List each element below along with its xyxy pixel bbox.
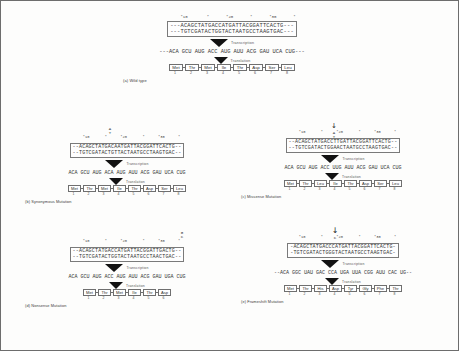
amino-acid-box: Met [284, 180, 297, 187]
amino-acid-box: Gly [359, 285, 372, 292]
amino-acid-box: Met [201, 64, 215, 71]
amino-acid-box: Ile [329, 180, 342, 187]
amino-acid-box: Met [169, 64, 183, 71]
amino-acid-box: Asp [143, 185, 156, 192]
amino-acid-box: Asp [158, 289, 171, 296]
amino-acid-box: Ile [113, 185, 126, 192]
panel-c-mrna-sequence: ACA GCU AUG ACC UUG AUU ACG GAU UCA CUG [239, 165, 447, 171]
panel-d-protein-chain: MetThrMetIleThrAsp [23, 289, 231, 296]
panel-c-residue-numbers: 12345678 [239, 187, 447, 191]
residue-number: 4 [216, 71, 230, 75]
residue-number: 3 [313, 187, 326, 191]
panel-d-mrna-sequence: ACA GCU AUG ACC AUG AUU ACG GAU UGA CUG [23, 274, 231, 280]
panel-synonymous-mutation: A T *10 * *20 * *30 * --ACAGCTATGACAATGA… [23, 127, 231, 204]
residue-number: 8 [280, 71, 294, 75]
amino-acid-box: Met [83, 289, 96, 296]
residue-number: 4 [127, 296, 140, 300]
amino-acid-box: Thr [128, 185, 141, 192]
panel-c-translation-label: Translation [342, 175, 361, 179]
translation-arrow-icon [109, 282, 123, 289]
residue-number: 6 [358, 187, 371, 191]
residue-number: 8 [388, 187, 401, 191]
residue-number: 7 [373, 292, 386, 296]
amino-acid-box: Leu [389, 180, 402, 187]
residue-number: 4 [328, 187, 341, 191]
amino-acid-box: Ser [265, 64, 279, 71]
panel-e-residue-numbers: 12345678 [239, 292, 447, 296]
panel-c-dna-template-strand: --TGTCGATACTGGAACTAATGCCTAAGTGAC-- [289, 146, 398, 152]
residue-number: 8 [388, 292, 401, 296]
panel-d-residue-numbers: 123456 [23, 296, 231, 300]
residue-number: 4 [112, 192, 125, 196]
residue-number: 4 [328, 292, 341, 296]
panel-missense-mutation: ↓ A T *10 * *20 * *30 * --ACAGCTATGACCTT… [239, 123, 447, 199]
amino-acid-box: Ile [217, 64, 231, 71]
amino-acid-box: Leu [173, 185, 186, 192]
amino-acid-box: Tyr [344, 285, 357, 292]
residue-number: 6 [142, 192, 155, 196]
panel-c-transcription-label: Transcription [342, 157, 364, 161]
amino-acid-box: Thr [143, 289, 156, 296]
residue-number: 5 [127, 192, 140, 196]
panel-a-mrna-sequence: ---ACA GCU AUG ACC AUG AUU ACG GAU UCA C… [119, 49, 345, 55]
amino-acid-box: Leu [281, 64, 295, 71]
panel-a-dna-template-strand: ---TGTCGATACTGGTACTAATGCCTAAGTGAC--- [170, 29, 294, 35]
panel-b-dna-duplex: --ACAGCTATGACAATGATTACGGATTCACTG-- --TGT… [70, 143, 185, 159]
amino-acid-box: Leu [314, 180, 327, 187]
panel-a-residue-numbers: 12345678 [119, 71, 345, 75]
amino-acid-box: Met [98, 185, 111, 192]
residue-number: 1 [283, 292, 296, 296]
amino-acid-box: His [314, 285, 327, 292]
residue-number: 6 [358, 292, 371, 296]
panel-frameshift-mutation: ↓ C *10 * *20 * *30 * -ACAGCTATGACCCATGA… [239, 227, 447, 304]
residue-number: 2 [184, 71, 198, 75]
panel-d-dna-template-strand: --TGTCGATACTGGTACTAATGCCTAACTGAC-- [73, 255, 182, 261]
residue-number: 5 [232, 71, 246, 75]
panel-b-residue-numbers: 12345678 [23, 192, 231, 196]
panel-a-translation-step: Translation [119, 57, 345, 64]
residue-number: 2 [298, 292, 311, 296]
amino-acid-box: Thr [299, 180, 312, 187]
panel-b-translation-label: Translation [126, 180, 145, 184]
amino-acid-box: Thr [98, 289, 111, 296]
transcription-arrow-icon [210, 39, 228, 47]
amino-acid-box: Met [284, 285, 297, 292]
amino-acid-box: Thr [233, 64, 247, 71]
panel-d-translation-step: Translation [23, 282, 231, 289]
transcription-arrow-icon [321, 155, 339, 163]
residue-number: 2 [82, 192, 95, 196]
residue-number: 1 [168, 71, 182, 75]
panel-b-protein-chain: MetThrMetIleThrAspSerLeu [23, 185, 231, 192]
amino-acid-box: Thr [389, 285, 402, 292]
residue-number: 5 [343, 292, 356, 296]
residue-number: 3 [97, 192, 110, 196]
amino-acid-box: Phe [374, 285, 387, 292]
panel-c-dna-duplex: --ACAGCTATGACCTTGATTACGGATTCACTG-- --TGT… [286, 138, 401, 154]
panel-b-mrna-sequence: ACA GCU AUG ACA AUG AUU ACG GAU UCA CUG [23, 170, 231, 176]
panel-b-transcription-step: Transcription [23, 160, 231, 168]
amino-acid-box: Thr [344, 180, 357, 187]
panel-e-protein-chain: MetThrHisAspTyrGlyPheThr [239, 285, 447, 292]
panel-d-caption: (d) Nonsense Mutation [23, 303, 231, 308]
residue-number: 6 [248, 71, 262, 75]
panel-e-translation-step: Translation [239, 278, 447, 285]
translation-arrow-icon [325, 173, 339, 180]
residue-number: 1 [82, 296, 95, 300]
transcription-arrow-icon [105, 264, 123, 272]
panel-e-mrna-sequence: --ACA GGC UAU GAC CCA UGA UUA CGG AUU CA… [239, 270, 447, 276]
translation-arrow-icon [214, 57, 228, 64]
residue-number: 3 [112, 296, 125, 300]
panel-e-translation-label: Translation [342, 280, 361, 284]
residue-number: 6 [157, 296, 170, 300]
figure-frame: *10 * *20 * *30 * ---ACAGCTATGACCATGATTA… [0, 0, 459, 351]
panel-d-transcription-label: Transcription [126, 266, 148, 270]
panel-b-translation-step: Translation [23, 178, 231, 185]
residue-number: 5 [343, 187, 356, 191]
residue-number: 1 [67, 192, 80, 196]
panel-d-transcription-step: Transcription [23, 264, 231, 272]
residue-number: 2 [298, 187, 311, 191]
amino-acid-box: Thr [299, 285, 312, 292]
panel-d-dna-duplex: --ACAGCTATGACCATGATTACGGATTGACTG-- --TGT… [70, 247, 185, 263]
panel-b-dna-template-strand: --TGTCGATACTGTTACTAATGCCTAAGTGAC-- [73, 151, 182, 157]
residue-number: 1 [283, 187, 296, 191]
